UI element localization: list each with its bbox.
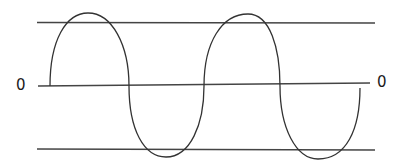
upper-bound-line (37, 23, 375, 24)
lower-bound-line (37, 149, 375, 150)
zero-label-right: 0 (377, 75, 387, 90)
zero-label-left: 0 (16, 78, 26, 93)
sine-wave-diagram (0, 0, 406, 166)
